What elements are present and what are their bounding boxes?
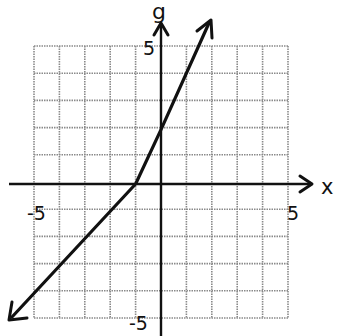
- y-min-tick-label: -5: [129, 312, 148, 334]
- y-axis: [154, 23, 168, 336]
- graph: g x -5 5 5 -5: [0, 0, 338, 336]
- x-min-tick-label: -5: [27, 202, 46, 224]
- y-max-tick-label: 5: [143, 37, 155, 59]
- x-max-tick-label: 5: [287, 202, 299, 224]
- y-axis-label: g: [152, 0, 166, 24]
- x-axis-label: x: [321, 175, 333, 199]
